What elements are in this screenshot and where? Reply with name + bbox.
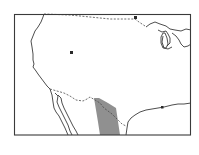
distribution-range xyxy=(94,98,120,135)
mainland-mexico-coast xyxy=(58,95,78,135)
lake-of-the-woods-marker xyxy=(134,16,137,19)
gulf-coast-marker xyxy=(161,106,164,109)
great-lakes xyxy=(146,22,191,49)
gulf-coastline xyxy=(126,103,191,135)
great-salt-lake-marker xyxy=(70,51,73,54)
range-map xyxy=(0,0,199,155)
pacific-coastline xyxy=(31,14,50,89)
us-canada-border xyxy=(44,14,145,26)
